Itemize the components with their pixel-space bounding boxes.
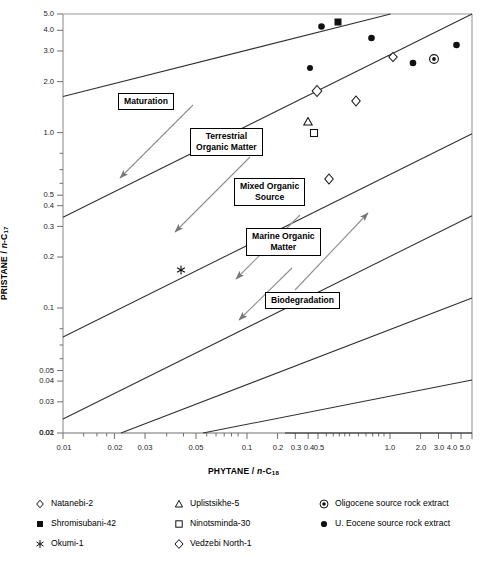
y-tick-label: 0.03 bbox=[10, 397, 54, 406]
y-axis-title-italic: n bbox=[0, 243, 9, 248]
legend-label: U. Eocene source rock extract bbox=[335, 518, 450, 528]
legend-label: Shromisubani-42 bbox=[51, 518, 116, 528]
open-diamond-icon bbox=[33, 497, 47, 511]
open-square-icon bbox=[172, 517, 186, 531]
marker-open-diamond bbox=[352, 96, 360, 106]
y-tick-label: 1.0 bbox=[10, 128, 54, 137]
y-axis-title: PRISTANE / n-C17 bbox=[0, 0, 9, 150]
legend-label: Oligocene source rock extract bbox=[335, 498, 449, 508]
annotation-biodegradation-label: Biodegradation bbox=[271, 295, 334, 305]
annotation-mixed-line1: Mixed Organic bbox=[240, 181, 299, 191]
y-tick-label: 0.4 bbox=[10, 201, 54, 210]
ratio-line-6 bbox=[203, 380, 472, 433]
marker-open-triangle bbox=[304, 118, 312, 126]
annotation-mixed-organic-source: Mixed Organic Source bbox=[234, 178, 305, 206]
annotation-biodegradation: Biodegradation bbox=[265, 292, 340, 309]
marker-circle-dot bbox=[430, 55, 439, 64]
annotation-marine-organic-matter: Marine Organic Matter bbox=[246, 228, 321, 256]
annotation-terrestrial-line2: Organic Matter bbox=[196, 142, 257, 152]
y-tick-label: 5.0 bbox=[10, 9, 54, 18]
x-axis-ticks bbox=[63, 433, 472, 439]
marker-open-diamond-large bbox=[312, 86, 322, 97]
y-tick-label: 0.2 bbox=[10, 252, 54, 261]
ratio-line-1 bbox=[63, 14, 391, 96]
y-axis-title-rest: -C bbox=[0, 234, 9, 243]
y-tick-label: 0.05 bbox=[10, 366, 54, 375]
annotation-marine-line2: Matter bbox=[270, 242, 296, 252]
x-axis-title-text: PHYTANE / bbox=[208, 466, 257, 476]
x-tick-label: 5.0 bbox=[452, 443, 478, 452]
marker-filled-circle bbox=[453, 42, 460, 49]
circle-dot-icon bbox=[317, 497, 331, 511]
marker-filled-square bbox=[335, 19, 342, 26]
marker-asterisk bbox=[177, 266, 185, 275]
marker-filled-circle bbox=[368, 35, 375, 42]
marker-open-square bbox=[311, 130, 318, 137]
marker-filled-circle bbox=[318, 23, 325, 30]
legend-label: Vedzebi North-1 bbox=[190, 538, 252, 548]
x-tick-label: 0.5 bbox=[306, 443, 332, 452]
ratio-line-5 bbox=[121, 298, 472, 433]
legend: Natanebi-2 Shromisubani-42 Okumi-1 bbox=[0, 497, 487, 557]
y-tick-label: 0.5 bbox=[10, 190, 54, 199]
chart-canvas bbox=[0, 0, 487, 562]
marker-filled-circle bbox=[307, 65, 313, 71]
x-tick-label: 0.03 bbox=[129, 443, 161, 452]
arrow-maturation bbox=[120, 105, 193, 178]
y-axis-title-text: PRISTANE / bbox=[0, 248, 9, 300]
marker-open-diamond bbox=[389, 53, 397, 62]
y-tick-label-min: 0.01 bbox=[10, 428, 54, 437]
asterisk-icon bbox=[33, 537, 47, 551]
y-tick-label: 0.3 bbox=[10, 222, 54, 231]
annotation-marine-line1: Marine Organic bbox=[252, 231, 315, 241]
annotation-terrestrial-line1: Terrestrial bbox=[206, 131, 247, 141]
y-axis-ticks bbox=[57, 14, 63, 433]
legend-label: Okumi-1 bbox=[51, 538, 83, 548]
figure-pristane-phytane-crossplot: 5.0 4.0 3.0 2.0 1.0 0.5 0.4 0.3 0.2 0.1 … bbox=[0, 0, 487, 562]
filled-square-icon bbox=[33, 517, 47, 531]
x-tick-label: 0.01 bbox=[48, 443, 80, 452]
annotation-mixed-line2: Source bbox=[255, 192, 284, 202]
x-axis-title: PHYTANE / n-C18 bbox=[0, 466, 487, 476]
annotation-maturation: Maturation bbox=[118, 93, 174, 110]
legend-label: Uplistsikhe-5 bbox=[190, 498, 239, 508]
marker-filled-circle bbox=[410, 60, 417, 67]
y-tick-label: 2.0 bbox=[10, 77, 54, 86]
x-tick-label: 0.02 bbox=[99, 443, 131, 452]
y-tick-label: 3.0 bbox=[10, 46, 54, 55]
x-axis-title-sub: 18 bbox=[272, 469, 279, 476]
y-axis-title-sub: 17 bbox=[2, 226, 9, 233]
annotation-maturation-label: Maturation bbox=[124, 96, 168, 106]
legend-label: Natanebi-2 bbox=[51, 498, 93, 508]
plot-frame bbox=[63, 14, 472, 433]
annotation-terrestrial-organic-matter: Terrestrial Organic Matter bbox=[190, 128, 263, 156]
x-tick-label: 1.0 bbox=[377, 443, 403, 452]
y-tick-label: 0.1 bbox=[10, 303, 54, 312]
legend-label: Ninotsminda-30 bbox=[190, 518, 250, 528]
open-triangle-icon bbox=[172, 497, 186, 511]
x-tick-label: 0.05 bbox=[180, 443, 212, 452]
reference-lines bbox=[63, 14, 472, 433]
open-diamond-large-icon bbox=[172, 537, 186, 551]
marker-open-diamond bbox=[325, 174, 333, 184]
y-tick-label: 0.04 bbox=[10, 376, 54, 385]
x-axis-title-rest: -C bbox=[262, 466, 271, 476]
y-tick-label: 4.0 bbox=[10, 25, 54, 34]
filled-circle-icon bbox=[317, 517, 331, 531]
x-tick-label: 0.1 bbox=[234, 443, 260, 452]
